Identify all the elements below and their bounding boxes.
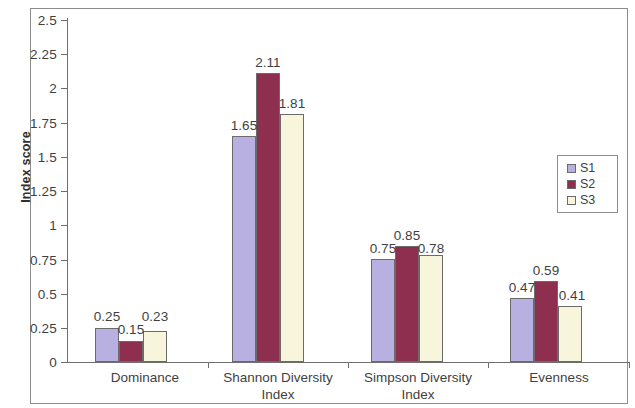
bar-value-simpson-s1: 0.75 [359,242,407,256]
plot-area: 0.25 0.15 0.23 1.65 2.11 1.81 0.75 0.85 … [67,20,630,362]
x-tick-mark [629,362,630,368]
bar-simpson-s2[interactable] [395,246,419,362]
legend-label-s2: S2 [580,178,595,191]
x-tick-mark [208,362,209,368]
y-tick-label: 2.25 [5,48,57,62]
x-tick-mark [488,362,489,368]
legend-label-s1: S1 [580,162,595,175]
bar-evenness-s1[interactable] [510,298,534,362]
bar-chart-screenshot: { "chart_data": { "type": "bar", "title"… [0,0,635,408]
y-tick-mark [61,362,68,363]
y-tick-label: 1.75 [5,117,57,131]
bar-shannon-s2[interactable] [256,73,280,362]
x-category-label-simpson: Simpson Diversity Index [348,370,488,404]
y-tick-label: 2.5 [5,14,57,28]
bar-evenness-s3[interactable] [558,306,582,362]
y-axis-title: Index score [19,117,33,217]
y-tick-label: 1.5 [5,151,57,165]
x-category-label-shannon: Shannon Diversity Index [208,370,348,404]
bar-value-dominance-s2: 0.15 [107,323,155,337]
x-tick-mark [348,362,349,368]
y-tick-label: 0.75 [5,254,57,268]
y-tick-label: 0 [5,356,57,370]
bar-simpson-s1[interactable] [371,259,395,362]
legend-item-s3[interactable]: S3 [567,193,617,208]
legend-swatch-icon-s3 [567,196,576,205]
x-category-label-dominance: Dominance [75,370,215,387]
y-tick-label: 2 [5,82,57,96]
chart-legend: S1 S2 S3 [557,155,618,213]
bar-value-shannon-s3: 1.81 [268,97,316,111]
x-category-label-evenness: Evenness [489,370,629,387]
bar-value-simpson-s3: 0.78 [407,242,455,256]
bar-value-shannon-s1: 1.65 [220,119,268,133]
bar-value-shannon-s2: 2.11 [244,56,292,70]
bar-value-evenness-s2: 0.59 [522,264,570,278]
legend-item-s2[interactable]: S2 [567,177,617,192]
bar-simpson-s3[interactable] [419,255,443,362]
legend-swatch-icon-s1 [567,164,576,173]
legend-swatch-icon-s2 [567,180,576,189]
y-tick-label: 1.25 [5,185,57,199]
bar-dominance-s2[interactable] [119,341,143,362]
legend-item-s1[interactable]: S1 [567,161,617,176]
bar-shannon-s3[interactable] [280,114,304,362]
bar-value-dominance-s3: 0.23 [131,310,179,324]
bar-value-evenness-s1: 0.47 [498,281,546,295]
y-tick-label: 0.25 [5,322,57,336]
bar-value-evenness-s3: 0.41 [548,289,596,303]
y-tick-label: 0.5 [5,288,57,302]
y-tick-label: 1 [5,219,57,233]
bar-shannon-s1[interactable] [232,136,256,362]
legend-label-s3: S3 [580,194,595,207]
